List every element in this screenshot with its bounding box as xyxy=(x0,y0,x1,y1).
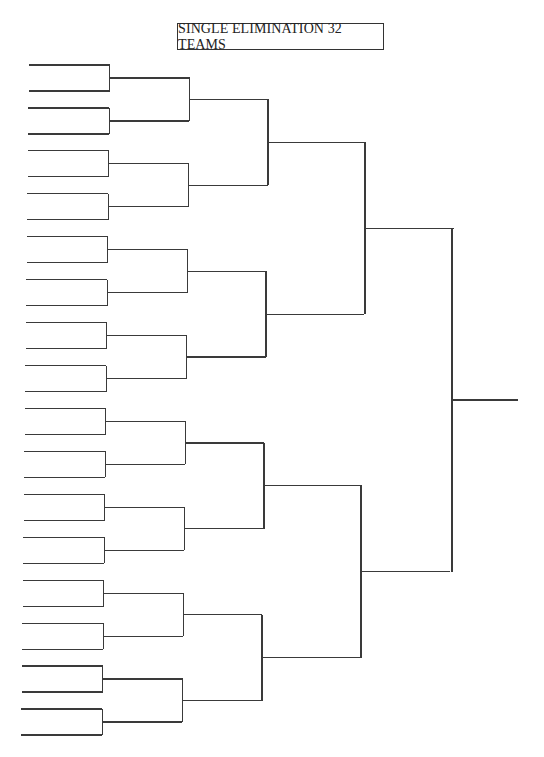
tournament-bracket xyxy=(0,0,544,757)
